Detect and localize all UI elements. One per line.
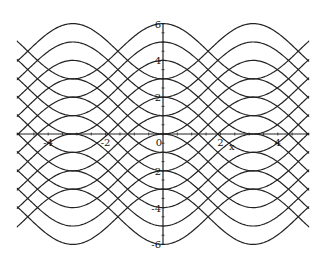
x-axis-label: x [229,141,235,152]
x-tick-label: 0 [156,137,162,148]
axes [17,24,310,245]
y-tick-label: 4 [155,55,161,66]
y-tick-label: 2 [155,92,161,103]
chart-plot: -4-2024-6-4-2246x [0,0,322,262]
y-tick-label: -6 [151,239,161,250]
y-tick-label: 6 [155,19,161,30]
x-tick-label: 4 [275,137,281,148]
y-tick-label: -4 [151,203,161,214]
x-tick-label: -2 [101,137,111,148]
x-tick-label: -4 [43,137,53,148]
y-tick-label: -2 [151,166,161,177]
x-tick-label: 2 [217,137,223,148]
